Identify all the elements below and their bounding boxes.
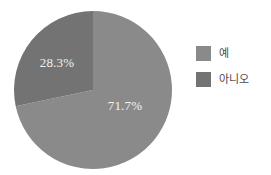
legend-item-no[interactable]: 아니오 xyxy=(196,71,271,87)
legend-swatch-no xyxy=(196,72,211,87)
chart-legend: 예 아니오 xyxy=(196,45,271,97)
legend-label-no: 아니오 xyxy=(219,74,249,85)
legend-label-yes: 예 xyxy=(219,48,229,59)
pie-slice-label-yes: 71.7% xyxy=(108,98,143,113)
pie-chart: 71.7% 28.3% 예 아니오 xyxy=(0,0,271,175)
pie-svg: 71.7% 28.3% xyxy=(0,0,190,175)
pie-slice-label-no: 28.3% xyxy=(40,55,75,70)
legend-item-yes[interactable]: 예 xyxy=(196,45,271,61)
legend-swatch-yes xyxy=(196,46,211,61)
pie-plot-area: 71.7% 28.3% xyxy=(0,0,190,175)
